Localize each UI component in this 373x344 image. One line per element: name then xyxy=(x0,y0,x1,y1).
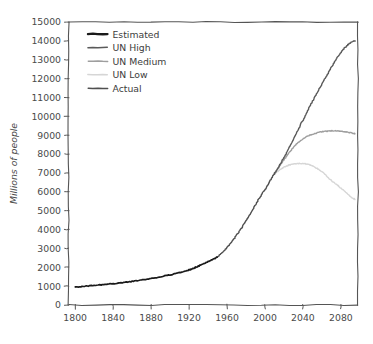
chart-canvas: 0100020003000400050006000700080009000100… xyxy=(0,0,373,344)
y-axis-tick-labels: 0100020003000400050006000700080009000100… xyxy=(31,16,61,310)
y-axis-title: Millions of people xyxy=(8,123,19,204)
x-tick-label: 1840 xyxy=(101,312,125,323)
x-tick-label: 1880 xyxy=(139,312,163,323)
y-tick-label: 14000 xyxy=(31,35,61,46)
legend-label-actual: Actual xyxy=(113,83,142,94)
x-tick-label: 1920 xyxy=(177,312,201,323)
population-projection-chart: 0100020003000400050006000700080009000100… xyxy=(0,0,373,344)
x-tick-label: 2080 xyxy=(329,312,353,323)
legend-label-estimated: Estimated xyxy=(113,29,160,40)
legend-label-un-low: UN Low xyxy=(113,69,148,80)
y-tick-label: 7000 xyxy=(37,167,61,178)
x-axis-tick-labels: 18001840188019201960200020402080 xyxy=(63,312,353,323)
x-tick-label: 2000 xyxy=(253,312,277,323)
y-tick-label: 9000 xyxy=(37,130,61,141)
legend-label-un-medium: UN Medium xyxy=(113,56,167,67)
y-tick xyxy=(65,248,69,249)
y-tick-label: 3000 xyxy=(37,243,61,254)
series-line-un-high xyxy=(274,41,355,174)
y-tick-label: 4000 xyxy=(37,224,61,235)
x-tick-label: 1960 xyxy=(215,312,239,323)
y-tick-label: 12000 xyxy=(31,73,61,84)
x-tick-label: 2040 xyxy=(291,312,315,323)
y-tick-label: 6000 xyxy=(37,186,61,197)
y-tick-label: 2000 xyxy=(37,262,61,273)
x-tick-label: 1800 xyxy=(63,312,87,323)
y-axis-spine xyxy=(68,22,69,305)
series-line-estimated xyxy=(75,257,217,287)
legend-swatch-estimated xyxy=(88,34,108,35)
y-tick-label: 13000 xyxy=(31,54,61,65)
y-tick-label: 0 xyxy=(55,299,61,310)
x-tick xyxy=(113,305,114,310)
x-tick xyxy=(265,305,266,309)
y-tick xyxy=(64,229,69,230)
series-line-actual xyxy=(217,174,274,257)
y-tick xyxy=(64,305,69,306)
legend-label-un-high: UN High xyxy=(113,42,151,53)
series-line-un-low xyxy=(275,163,355,199)
y-tick-label: 11000 xyxy=(31,92,61,103)
chart-legend: EstimatedUN HighUN MediumUN LowActual xyxy=(88,29,167,94)
y-tick-label: 8000 xyxy=(37,148,61,159)
y-tick-label: 10000 xyxy=(31,111,61,122)
y-tick-label: 1000 xyxy=(37,281,61,292)
right-spine xyxy=(358,22,359,306)
top-spine xyxy=(69,22,359,23)
y-tick-label: 5000 xyxy=(37,205,61,216)
y-tick-label: 15000 xyxy=(31,16,61,27)
